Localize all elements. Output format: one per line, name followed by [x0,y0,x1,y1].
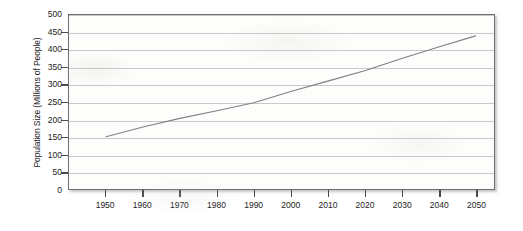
x-tick-label-2040: 2040 [430,199,449,211]
x-tick-mark-1990 [254,190,255,197]
x-tick-label-1960: 1960 [133,199,152,211]
y-tick-mark-250 [61,102,68,103]
series-path-population-size [106,36,476,137]
x-axis-tick-labels: 1950196019701980199020002010202020302040… [68,199,495,213]
y-tick-label-0: 0 [38,185,62,195]
x-axis-tick-marks [68,190,495,198]
population-line-chart: Population Size (Millions of People) 050… [0,0,523,231]
x-tick-mark-2020 [365,190,366,197]
y-tick-mark-50 [61,172,68,173]
x-tick-mark-2000 [291,190,292,197]
y-tick-mark-200 [61,120,68,121]
y-axis-tick-labels: 050100150200250300350400450500 [38,0,62,231]
x-tick-label-1990: 1990 [244,199,263,211]
population-series-line [69,15,494,189]
y-tick-mark-450 [61,32,68,33]
x-tick-label-1950: 1950 [96,199,115,211]
plot-inner [69,15,494,189]
x-tick-label-2050: 2050 [467,199,486,211]
y-tick-label-450: 450 [38,27,62,37]
x-tick-mark-1970 [179,190,180,197]
x-tick-mark-2030 [402,190,403,197]
x-tick-mark-1950 [105,190,106,197]
x-tick-label-2000: 2000 [281,199,300,211]
x-tick-label-2010: 2010 [318,199,337,211]
y-tick-mark-350 [61,67,68,68]
x-tick-label-2020: 2020 [356,199,375,211]
y-tick-label-250: 250 [38,97,62,107]
x-tick-mark-2010 [328,190,329,197]
y-tick-mark-300 [61,84,68,85]
x-tick-mark-1980 [217,190,218,197]
y-tick-mark-400 [61,49,68,50]
x-tick-mark-2050 [476,190,477,197]
y-tick-mark-100 [61,155,68,156]
x-tick-mark-1960 [142,190,143,197]
plot-area [68,14,495,190]
y-tick-label-300: 300 [38,79,62,89]
x-tick-label-1970: 1970 [170,199,189,211]
y-tick-label-500: 500 [38,9,62,19]
y-tick-label-350: 350 [38,62,62,72]
y-tick-label-100: 100 [38,150,62,160]
y-tick-label-50: 50 [38,167,62,177]
x-tick-label-1980: 1980 [207,199,226,211]
y-tick-mark-150 [61,137,68,138]
y-tick-label-400: 400 [38,44,62,54]
y-tick-label-200: 200 [38,115,62,125]
x-tick-mark-2040 [439,190,440,197]
y-tick-label-150: 150 [38,132,62,142]
x-tick-label-2030: 2030 [393,199,412,211]
